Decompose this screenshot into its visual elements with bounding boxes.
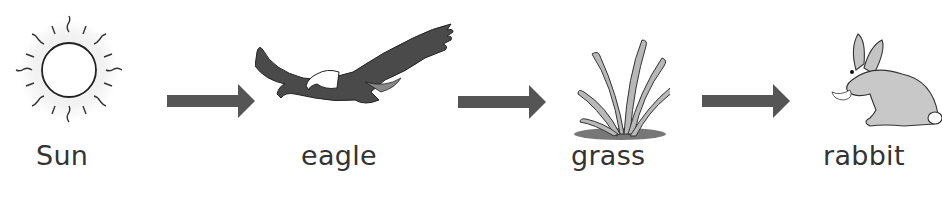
arrow-right-icon bbox=[458, 85, 546, 119]
eagle-icon bbox=[255, 22, 455, 117]
arrow-right-icon bbox=[167, 84, 255, 118]
arrow-right-icon bbox=[702, 84, 790, 118]
node-label-rabbit: rabbit bbox=[823, 140, 905, 171]
grass-icon bbox=[570, 36, 670, 142]
node-label-eagle: eagle bbox=[301, 140, 377, 171]
node-label-grass: grass bbox=[571, 140, 645, 171]
node-label-sun: Sun bbox=[36, 140, 88, 171]
rabbit-icon bbox=[824, 30, 942, 132]
sun-icon bbox=[12, 12, 122, 127]
